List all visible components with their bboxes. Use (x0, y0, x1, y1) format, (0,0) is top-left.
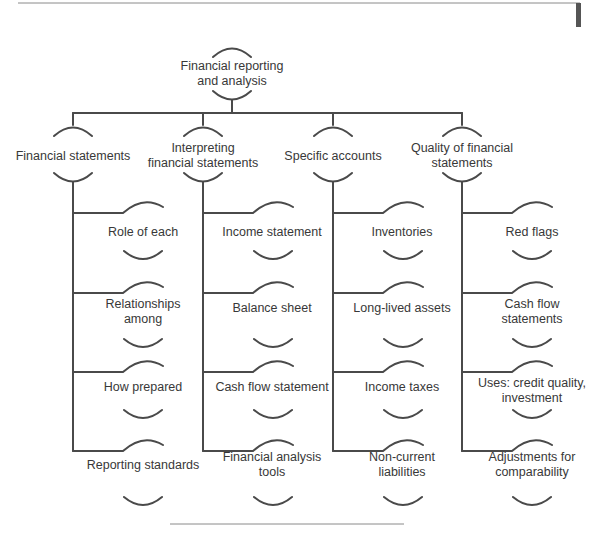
child-arc-bottom (124, 251, 162, 259)
root-node: Financial reporting and analysis (181, 59, 284, 89)
page-marker (576, 3, 581, 27)
child-cash-flow-statements: Cash flow statements (501, 297, 562, 327)
child-reporting-standards: Reporting standards (87, 458, 200, 473)
child-arc-top (462, 202, 552, 213)
root-label-line2: and analysis (181, 74, 284, 89)
child-arc-bottom (124, 497, 162, 505)
child-financial-analysis-tools: Financial analysis tools (223, 450, 322, 480)
level1-arc-top (54, 128, 92, 137)
child-arc-bottom (384, 497, 422, 505)
child-arc-bottom (384, 410, 422, 418)
level1-arc-top (443, 128, 481, 137)
child-arc-bottom (254, 339, 292, 347)
child-arc-top (73, 361, 163, 372)
root-arc-top (213, 49, 251, 58)
child-arc-top (462, 282, 552, 293)
node-specific-accounts: Specific accounts (284, 149, 381, 164)
child-relationships-among: Relationships among (105, 297, 180, 327)
child-arc-top (73, 202, 163, 213)
child-arc-top (333, 361, 423, 372)
child-arc-top (462, 361, 552, 372)
child-arc-bottom (384, 339, 422, 347)
child-arc-bottom (124, 339, 162, 347)
root-arc-bottom (213, 91, 251, 100)
child-role-of-each: Role of each (108, 225, 178, 240)
child-inventories: Inventories (371, 225, 432, 240)
child-how-prepared: How prepared (104, 380, 183, 395)
child-arc-bottom (254, 497, 292, 505)
child-arc-top (203, 202, 293, 213)
child-balance-sheet: Balance sheet (232, 301, 311, 316)
child-arc-bottom (254, 410, 292, 418)
child-adjustments-for-comparability: Adjustments for comparability (489, 450, 576, 480)
child-arc-bottom (124, 410, 162, 418)
child-arc-bottom (513, 339, 551, 347)
child-income-statement: Income statement (222, 225, 321, 240)
child-income-taxes: Income taxes (365, 380, 439, 395)
child-arc-top (203, 282, 293, 293)
child-arc-bottom (513, 497, 551, 505)
child-non-current-liabilities: Non-current liabilities (369, 450, 435, 480)
level1-arc-bottom (184, 173, 222, 182)
child-arc-top (333, 282, 423, 293)
child-arc-bottom (254, 251, 292, 259)
node-quality-of-financial-statements: Quality of financial statements (411, 141, 513, 171)
level1-arc-top (314, 128, 352, 137)
child-cash-flow-statement: Cash flow statement (215, 380, 328, 395)
root-label-line1: Financial reporting (181, 59, 284, 74)
child-red-flags: Red flags (506, 225, 559, 240)
node-interpreting-financial-statements: Interpreting financial statements (148, 141, 258, 171)
child-arc-bottom (384, 251, 422, 259)
child-arc-bottom (513, 251, 551, 259)
child-arc-top (203, 361, 293, 372)
child-arc-top (73, 440, 163, 451)
child-arc-top (333, 202, 423, 213)
level1-arc-top (184, 128, 222, 137)
child-arc-bottom (513, 410, 551, 418)
level1-arc-bottom (314, 173, 352, 182)
child-uses-credit-quality: Uses: credit quality, investment (478, 376, 586, 406)
node-financial-statements: Financial statements (16, 149, 131, 164)
child-long-lived-assets: Long-lived assets (353, 301, 450, 316)
child-arc-top (73, 282, 163, 293)
level1-arc-bottom (443, 173, 481, 182)
level1-arc-bottom (54, 173, 92, 182)
